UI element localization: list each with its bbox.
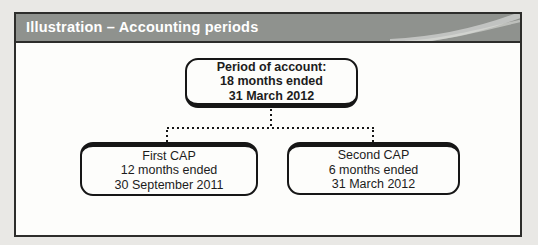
- box-line: 30 September 2011: [115, 178, 224, 193]
- box-line: 31 March 2012: [332, 177, 415, 192]
- connector-right-vertical: [372, 130, 374, 142]
- period-of-account-box: Period of account: 18 months ended 31 Ma…: [185, 58, 358, 108]
- box-line: 18 months ended: [220, 74, 323, 89]
- connector-left-vertical: [166, 130, 168, 142]
- illustration-header-title: Illustration – Accounting periods: [26, 14, 258, 41]
- connector-horizontal: [167, 127, 374, 129]
- box-line: 31 March 2012: [229, 89, 314, 104]
- illustration-panel: Illustration – Accounting periods: [14, 12, 522, 237]
- illustration-header: Illustration – Accounting periods: [16, 14, 520, 43]
- swoosh-decoration-icon: [390, 14, 520, 41]
- scanned-page: Illustration – Accounting periods Period…: [0, 0, 538, 245]
- box-line: Period of account:: [217, 60, 327, 75]
- connector-root-vertical: [270, 109, 272, 128]
- box-line: Second CAP: [338, 148, 410, 163]
- box-line: 6 months ended: [329, 163, 419, 178]
- second-cap-box: Second CAP 6 months ended 31 March 2012: [287, 142, 460, 195]
- box-line: 12 months ended: [121, 163, 218, 178]
- box-line: First CAP: [142, 149, 195, 164]
- first-cap-box: First CAP 12 months ended 30 September 2…: [80, 142, 258, 196]
